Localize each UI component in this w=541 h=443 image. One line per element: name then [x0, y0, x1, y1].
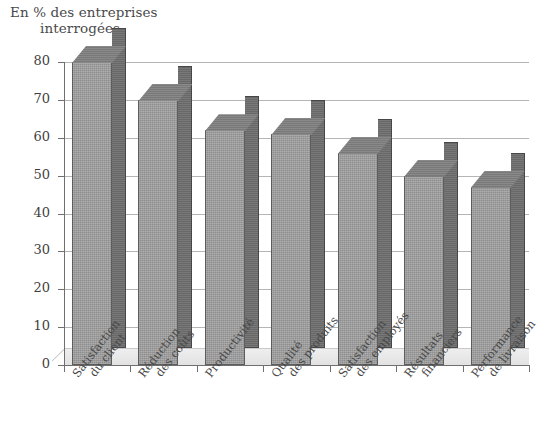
- y-tick-label: 50: [16, 167, 50, 182]
- bar: [271, 62, 311, 365]
- y-tick-label: 70: [16, 91, 50, 106]
- x-tick-mark: [330, 365, 331, 372]
- y-tick-mark: [58, 251, 65, 252]
- y-tick-mark: [58, 214, 65, 215]
- bar-front-face: [72, 62, 112, 365]
- y-tick-mark: [58, 289, 65, 290]
- bar-side-face: [112, 28, 126, 348]
- x-tick-mark: [197, 365, 198, 372]
- y-tick-label: 20: [16, 280, 50, 295]
- y-tick-mark: [58, 176, 65, 177]
- y-tick-label: 30: [16, 242, 50, 257]
- y-tick-label: 80: [16, 53, 50, 68]
- x-tick-mark: [130, 365, 131, 372]
- x-tick-mark: [396, 365, 397, 372]
- y-tick-mark: [58, 327, 65, 328]
- y-tick-mark: [58, 138, 65, 139]
- y-tick-label: 60: [16, 129, 50, 144]
- bar: [205, 62, 245, 365]
- bar: [138, 62, 178, 365]
- y-tick-label: 10: [16, 318, 50, 333]
- x-tick-mark: [463, 365, 464, 372]
- y-tick-mark: [58, 62, 65, 63]
- x-tick-mark: [263, 365, 264, 372]
- bar: [471, 62, 511, 365]
- bar: [72, 62, 112, 365]
- bar: [404, 62, 444, 365]
- y-tick-mark: [58, 100, 65, 101]
- x-tick-mark: [64, 365, 65, 372]
- bar: [338, 62, 378, 365]
- x-tick-mark: [529, 365, 530, 372]
- y-tick-label: 40: [16, 205, 50, 220]
- y-tick-label: 0: [16, 356, 50, 371]
